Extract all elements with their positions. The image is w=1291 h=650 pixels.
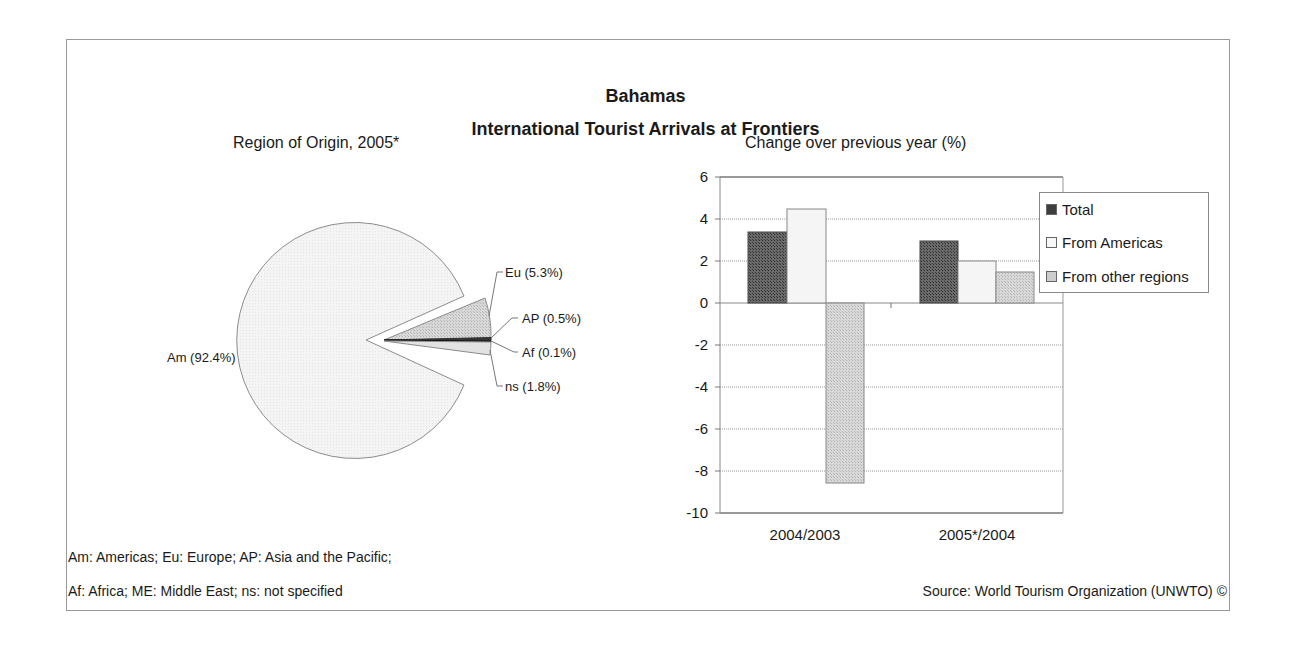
x-category-label: 2004/2003 [770, 526, 841, 543]
legend-swatch-other [1046, 271, 1057, 282]
bar-other-2004 [826, 303, 864, 483]
y-tick-label: -8 [695, 462, 708, 479]
y-tick-label: 4 [700, 210, 708, 227]
pie-label-am: Am (92.4%) [167, 350, 236, 365]
y-tick-label: -10 [686, 504, 708, 521]
source-credit: Source: World Tourism Organization (UNWT… [923, 583, 1227, 599]
bar-chart: 6 4 2 0 -2 -4 -6 -8 -10 2004/2003 2005*/… [686, 168, 1063, 543]
bar-legend: Total From Americas From other regions [1039, 192, 1209, 293]
bar-other-2005 [996, 272, 1034, 303]
pie-label-af: Af (0.1%) [522, 345, 576, 360]
y-tick-label: -4 [695, 378, 708, 395]
legend-swatch-americas [1046, 237, 1057, 248]
legend-label: Total [1062, 201, 1094, 218]
bar-total-2004 [748, 232, 787, 303]
bar-americas-2005 [958, 261, 996, 303]
y-tick-label: -2 [695, 336, 708, 353]
pie-slice-not-specified [384, 341, 491, 355]
x-category-label: 2005*/2004 [939, 526, 1016, 543]
y-tick-label: 6 [700, 168, 708, 185]
bar-total-2005 [920, 241, 958, 303]
pie-chart: Eu (5.3%) AP (0.5%) Af (0.1%) ns (1.8%) … [167, 222, 581, 458]
y-tick-label: -6 [695, 420, 708, 437]
y-tick-label: 2 [700, 252, 708, 269]
abbreviation-note-line-2: Af: Africa; ME: Middle East; ns: not spe… [68, 583, 343, 599]
abbreviation-note-line-1: Am: Americas; Eu: Europe; AP: Asia and t… [68, 549, 392, 565]
pie-label-ns: ns (1.8%) [505, 379, 561, 394]
legend-item-total: Total [1046, 201, 1094, 218]
legend-swatch-total [1046, 204, 1057, 215]
y-tick-label: 0 [700, 294, 708, 311]
legend-label: From Americas [1062, 234, 1163, 251]
legend-item-americas: From Americas [1046, 234, 1163, 251]
pie-label-eu: Eu (5.3%) [505, 265, 563, 280]
bar-americas-2004 [787, 209, 826, 303]
legend-item-other: From other regions [1046, 268, 1189, 285]
pie-label-ap: AP (0.5%) [522, 311, 581, 326]
legend-label: From other regions [1062, 268, 1189, 285]
